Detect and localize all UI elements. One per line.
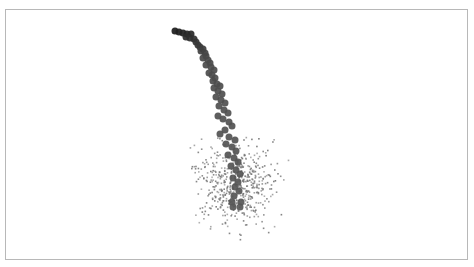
scatter-plot	[0, 0, 474, 267]
trajectory-points	[172, 28, 245, 211]
